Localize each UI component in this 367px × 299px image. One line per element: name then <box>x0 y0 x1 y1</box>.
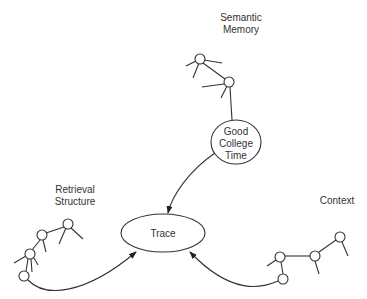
retrieval-node-2 <box>37 230 47 240</box>
context-node-2 <box>310 251 320 261</box>
good-college-time-line-2: College <box>219 138 253 149</box>
retrieval-node-4 <box>19 271 29 281</box>
semantic-node-2 <box>224 77 234 87</box>
diagram-graphics: Good College Time Trace <box>0 0 367 299</box>
context-node-3 <box>275 252 285 262</box>
retrieval-structure-network <box>14 219 83 281</box>
retrieval-node-3 <box>25 249 35 259</box>
diagram-canvas: Semantic Memory Retrieval Structure Cont… <box>0 0 367 299</box>
arrow-retrieval-to-trace <box>28 252 136 290</box>
trace-label: Trace <box>150 228 176 239</box>
arrow-context-to-trace <box>190 252 278 287</box>
semantic-memory-network <box>186 54 234 120</box>
semantic-node-1 <box>195 54 205 64</box>
context-node-1 <box>335 232 345 242</box>
trace-node: Trace <box>121 214 205 252</box>
retrieval-node-1 <box>63 219 73 229</box>
arrow-gct-to-trace <box>168 153 215 213</box>
good-college-time-line-3: Time <box>225 150 247 161</box>
context-node-4 <box>278 274 288 284</box>
good-college-time-node: Good College Time <box>211 120 261 164</box>
good-college-time-line-1: Good <box>224 126 248 137</box>
context-network <box>267 232 348 284</box>
